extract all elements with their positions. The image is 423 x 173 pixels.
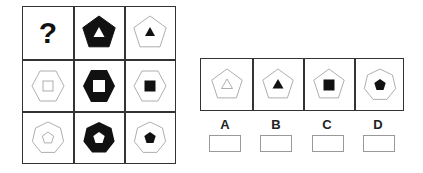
grid-cell-r2c3 xyxy=(125,60,175,111)
black-pentagon-white-triangle-icon xyxy=(79,13,119,53)
grid-cell-r1c2 xyxy=(74,7,124,59)
white-pentagon-black-triangle-icon xyxy=(130,13,170,53)
options-strip xyxy=(200,58,404,111)
white-pentagon-white-triangle-icon xyxy=(207,65,247,105)
option-label-b: B xyxy=(251,117,301,132)
option-label-d: D xyxy=(353,117,403,132)
option-c[interactable] xyxy=(304,59,354,110)
answer-box-d[interactable] xyxy=(363,135,395,152)
grid-cell-r3c2 xyxy=(74,112,124,163)
white-heptagon-black-pentagon-icon xyxy=(360,65,400,105)
grid-cell-question: ? xyxy=(23,7,73,59)
grid-cell-r3c3 xyxy=(125,112,175,163)
answer-box-b[interactable] xyxy=(260,135,292,152)
option-d[interactable] xyxy=(355,59,404,110)
option-label-a: A xyxy=(200,117,250,132)
black-hexagon-white-square-icon xyxy=(79,66,119,106)
white-heptagon-black-pentagon-icon xyxy=(130,118,170,158)
white-hexagon-black-square-icon xyxy=(130,66,170,106)
white-pentagon-black-square-icon xyxy=(309,65,349,105)
grid-cell-r1c3 xyxy=(125,7,175,59)
question-mark: ? xyxy=(39,16,57,50)
option-b[interactable] xyxy=(253,59,303,110)
option-label-c: C xyxy=(302,117,352,132)
puzzle-grid: ? xyxy=(22,6,176,164)
answer-box-c[interactable] xyxy=(312,135,344,152)
white-hexagon-white-square-icon xyxy=(28,66,68,106)
grid-cell-r3c1 xyxy=(23,112,73,163)
grid-cell-r2c2 xyxy=(74,60,124,111)
option-a[interactable] xyxy=(201,59,252,110)
black-heptagon-white-pentagon-icon xyxy=(79,118,119,158)
answer-box-a[interactable] xyxy=(209,135,241,152)
white-heptagon-white-pentagon-icon xyxy=(28,118,68,158)
white-pentagon-black-triangle-icon xyxy=(258,65,298,105)
grid-cell-r2c1 xyxy=(23,60,73,111)
